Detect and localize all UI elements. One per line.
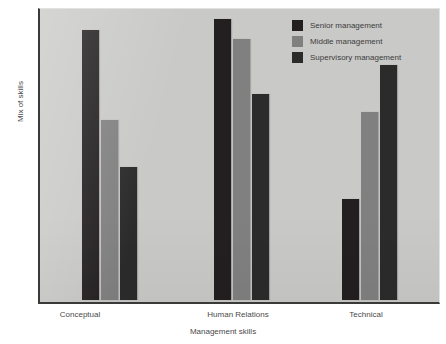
chart-legend: Senior managementMiddle managementSuperv… [292, 17, 401, 65]
bar [101, 120, 118, 300]
legend-swatch-icon [292, 36, 303, 47]
bar [120, 167, 137, 300]
legend-item-label: Supervisory management [310, 53, 401, 62]
legend-item: Supervisory management [292, 49, 401, 65]
legend-item: Middle management [292, 33, 401, 49]
legend-item: Senior management [292, 17, 401, 33]
bar-group-human-relations [214, 10, 269, 300]
legend-swatch-icon [292, 20, 303, 31]
bar [82, 30, 99, 300]
bar [233, 39, 250, 300]
legend-swatch-icon [292, 52, 303, 63]
x-tick-label-conceptual: Conceptual [60, 310, 100, 319]
bar [342, 199, 359, 301]
x-tick-label-human-relations: Human Relations [207, 310, 268, 319]
bar [214, 19, 231, 300]
bar [252, 94, 269, 300]
y-axis-title: Mix of skills [16, 81, 25, 122]
bar-group-conceptual [82, 10, 137, 300]
x-axis-title: Management skills [0, 327, 446, 336]
legend-item-label: Senior management [310, 21, 382, 30]
bar [380, 65, 397, 300]
bar [361, 112, 378, 301]
bar-chart-figure: ConceptualHuman RelationsTechnical Manag… [0, 0, 446, 344]
x-tick-label-technical: Technical [349, 310, 382, 319]
legend-item-label: Middle management [310, 37, 382, 46]
